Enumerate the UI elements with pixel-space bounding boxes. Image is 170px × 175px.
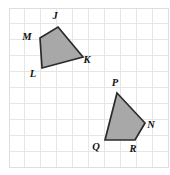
vertex-label-l: L: [29, 68, 36, 79]
quadrilateral-jklm: [40, 27, 83, 68]
vertex-label-m: M: [21, 31, 32, 42]
quadrilateral-pnrq: [105, 93, 145, 140]
geometry-figure-canvas: JKLMPNRQ: [0, 0, 170, 175]
vertex-label-k: K: [82, 54, 91, 65]
coordinate-grid: [9, 8, 168, 167]
vertex-label-n: N: [146, 119, 155, 130]
polygon-layer: [40, 27, 145, 140]
vertex-label-q: Q: [92, 141, 100, 152]
vertex-label-j: J: [51, 10, 58, 21]
geometry-figure-svg: JKLMPNRQ: [0, 0, 170, 175]
vertex-label-r: R: [128, 143, 136, 154]
vertex-label-p: P: [112, 77, 119, 88]
